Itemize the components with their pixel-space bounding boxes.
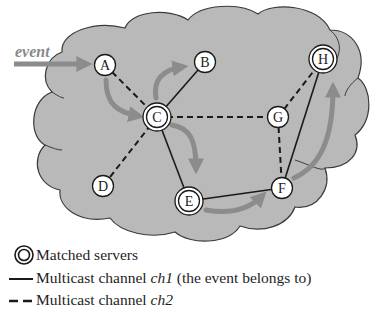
- double-circle-icon: [6, 245, 36, 265]
- legend-matched-servers: Matched servers: [6, 244, 392, 267]
- svg-text:E: E: [185, 194, 194, 209]
- node-c-matched: C: [143, 103, 171, 131]
- svg-text:G: G: [273, 110, 283, 125]
- solid-line-icon: [6, 268, 36, 288]
- node-d: D: [93, 176, 114, 197]
- legend-ch1: Multicast channel ch1 (the event belongs…: [6, 267, 392, 290]
- svg-text:H: H: [318, 52, 328, 67]
- node-f: F: [272, 178, 293, 199]
- node-a: A: [95, 55, 116, 76]
- svg-text:B: B: [200, 55, 209, 70]
- svg-text:F: F: [278, 181, 286, 196]
- node-e-matched: E: [175, 187, 203, 215]
- legend-matched-label: Matched servers: [36, 246, 138, 264]
- svg-text:A: A: [100, 58, 111, 73]
- legend-ch1-label: Multicast channel ch1 (the event belongs…: [36, 269, 312, 287]
- legend-ch2-label: Multicast channel ch2: [36, 291, 173, 309]
- legend-ch2: Multicast channel ch2: [6, 289, 392, 312]
- dashed-line-icon: [6, 290, 36, 310]
- svg-text:D: D: [98, 179, 108, 194]
- svg-text:C: C: [152, 110, 161, 125]
- node-h-matched: H: [309, 45, 337, 73]
- node-b: B: [195, 52, 216, 73]
- multicast-diagram: event A B C D E F G: [0, 0, 392, 245]
- legend: Matched servers Multicast channel ch1 (t…: [6, 244, 392, 312]
- node-g: G: [268, 107, 289, 128]
- event-label: event: [15, 43, 50, 60]
